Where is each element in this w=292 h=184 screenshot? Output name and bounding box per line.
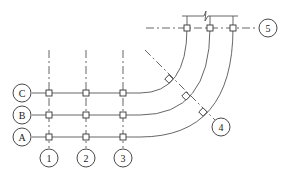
axis-bubble-C: C	[13, 84, 31, 102]
svg-text:5: 5	[266, 23, 271, 34]
svg-text:A: A	[18, 132, 26, 143]
axis-bubble-2: 2	[77, 149, 95, 167]
svg-text:1: 1	[47, 153, 52, 164]
top-axis	[146, 11, 258, 28]
grid-diagram: C B A 1 2 3 4 5	[0, 0, 292, 184]
svg-text:4: 4	[219, 122, 224, 133]
svg-text:C: C	[19, 88, 26, 99]
svg-text:B: B	[19, 110, 26, 121]
svg-text:3: 3	[121, 153, 126, 164]
axis-bubble-3: 3	[114, 149, 132, 167]
axis-bubble-1: 1	[40, 149, 58, 167]
grid-nodes	[46, 25, 236, 140]
axis-bubble-4: 4	[212, 118, 230, 136]
row-axes	[32, 28, 233, 137]
axis-bubble-A: A	[13, 128, 31, 146]
svg-text:2: 2	[84, 153, 89, 164]
axis-bubble-5: 5	[259, 19, 277, 37]
axis-bubble-B: B	[13, 106, 31, 124]
column-axes	[49, 50, 123, 148]
